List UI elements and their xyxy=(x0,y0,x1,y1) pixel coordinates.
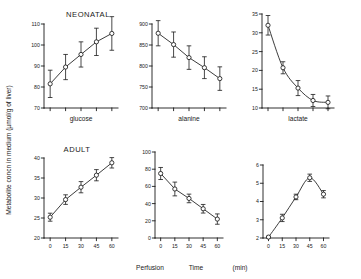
y-tick-label: 750 xyxy=(139,84,148,90)
data-point-marker xyxy=(187,196,191,200)
data-point-marker xyxy=(281,66,285,70)
y-tick-label: 70 xyxy=(34,105,40,111)
panel-caption: glucose xyxy=(70,115,93,123)
x-tick-label: 60 xyxy=(321,243,327,249)
y-tick-label: 10 xyxy=(252,105,258,111)
data-point-marker xyxy=(110,31,114,35)
metabolite-concentration-figure: 708090100110glucose700750800850900alanin… xyxy=(0,0,361,279)
y-tick-label: 90 xyxy=(34,63,40,69)
data-point-marker xyxy=(321,192,325,196)
panel-caption: alanine xyxy=(178,115,200,122)
y-tick-label: 100 xyxy=(31,42,40,48)
data-point-marker xyxy=(171,42,175,46)
panel-caption: lactate xyxy=(288,115,308,122)
y-tick-label: 700 xyxy=(139,105,148,111)
data-point-marker xyxy=(187,56,191,60)
data-point-marker xyxy=(159,171,163,175)
y-tick-label: 30 xyxy=(34,195,40,201)
y-tick-label: 35 xyxy=(34,175,40,181)
data-point-marker xyxy=(110,161,114,165)
x-tick-label: 45 xyxy=(307,243,313,249)
data-point-marker xyxy=(311,98,315,102)
x-tick-label: 0 xyxy=(159,243,162,249)
panel-neonatal-glucose: 708090100110glucose xyxy=(31,17,118,123)
data-point-marker xyxy=(48,82,52,86)
x-tick-label: 15 xyxy=(279,243,285,249)
x-axis-title-perfusion: Perfusion xyxy=(136,264,164,271)
y-tick-label: 3 xyxy=(256,217,259,223)
y-tick-label: 20 xyxy=(34,235,40,241)
data-point-marker xyxy=(218,77,222,81)
y-tick-label: 25 xyxy=(252,49,258,55)
y-tick-label: 40 xyxy=(145,201,151,207)
y-tick-label: 5 xyxy=(256,180,259,186)
x-tick-label: 30 xyxy=(78,243,84,249)
y-tick-label: 4 xyxy=(256,198,259,204)
y-tick-label: 100 xyxy=(142,149,151,155)
panel-neonatal-alanine: 700750800850900alanine xyxy=(139,21,226,122)
data-point-marker xyxy=(308,176,312,180)
data-point-marker xyxy=(48,215,52,219)
x-axis-title-units: (min) xyxy=(232,264,247,272)
data-point-marker xyxy=(266,23,270,27)
x-tick-label: 0 xyxy=(267,243,270,249)
y-tick-label: 0 xyxy=(148,235,151,241)
x-tick-label: 60 xyxy=(109,243,115,249)
y-tick-label: 800 xyxy=(139,63,148,69)
x-tick-label: 15 xyxy=(172,243,178,249)
y-tick-label: 35 xyxy=(252,11,258,17)
y-tick-label: 80 xyxy=(145,166,151,172)
y-tick-label: 20 xyxy=(252,67,258,73)
row-title-neonatal: NEONATAL xyxy=(66,10,110,19)
figure-container: 708090100110glucose700750800850900alanin… xyxy=(0,0,361,279)
row-title-adult: ADULT xyxy=(64,145,91,154)
data-point-marker xyxy=(280,216,284,220)
y-axis-title: Metabolite concn in medium (µmol/g of li… xyxy=(5,85,13,215)
data-point-marker xyxy=(79,185,83,189)
y-tick-label: 850 xyxy=(139,42,148,48)
y-tick-label: 6 xyxy=(256,162,259,168)
x-axis-title-time: Time xyxy=(189,264,204,271)
data-point-marker xyxy=(296,86,300,90)
y-tick-label: 15 xyxy=(252,86,258,92)
x-tick-label: 30 xyxy=(293,243,299,249)
x-tick-label: 0 xyxy=(49,243,52,249)
data-point-marker xyxy=(294,195,298,199)
data-point-marker xyxy=(156,31,160,35)
panel-adult-alanine: 020406080100015304560 xyxy=(142,149,223,249)
x-tick-label: 45 xyxy=(200,243,206,249)
data-point-marker xyxy=(94,173,98,177)
data-point-marker xyxy=(63,198,67,202)
data-point-marker xyxy=(326,100,330,104)
y-tick-label: 20 xyxy=(145,218,151,224)
y-tick-label: 2 xyxy=(256,235,259,241)
data-point-marker xyxy=(173,187,177,191)
data-line xyxy=(269,178,324,237)
data-point-marker xyxy=(215,217,219,221)
x-tick-label: 15 xyxy=(63,243,69,249)
data-point-marker xyxy=(201,207,205,211)
y-tick-label: 40 xyxy=(34,155,40,161)
data-point-marker xyxy=(79,52,83,56)
y-tick-label: 80 xyxy=(34,84,40,90)
y-tick-label: 30 xyxy=(252,30,258,36)
panel-adult-glucose: 2025303540015304560 xyxy=(34,155,118,249)
y-tick-label: 25 xyxy=(34,215,40,221)
data-point-marker xyxy=(94,40,98,44)
x-tick-label: 30 xyxy=(186,243,192,249)
y-tick-label: 900 xyxy=(139,21,148,27)
panel-adult-lactate: 23456015304560 xyxy=(256,162,329,249)
x-tick-label: 45 xyxy=(94,243,100,249)
panel-neonatal-lactate: 101520253035lactate xyxy=(252,11,334,122)
data-point-marker xyxy=(202,66,206,70)
data-point-marker xyxy=(63,65,67,69)
x-tick-label: 60 xyxy=(214,243,220,249)
data-point-marker xyxy=(266,235,270,239)
y-tick-label: 60 xyxy=(145,183,151,189)
y-tick-label: 110 xyxy=(32,21,40,27)
